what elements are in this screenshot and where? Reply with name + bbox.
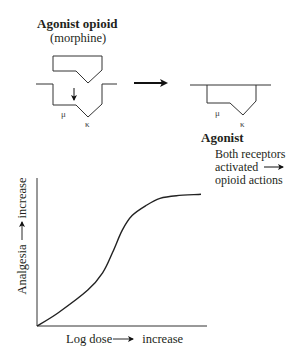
agonist-bound-receptor-shape	[190, 85, 271, 115]
before-mu-label: μ	[61, 110, 66, 119]
after-mu-label: μ	[215, 109, 220, 118]
x-axis-label-prefix: Log dose	[66, 332, 112, 346]
x-axis-label: Log doseincrease	[66, 333, 183, 346]
dose-response-curve	[37, 194, 201, 326]
y-axis-label-prefix: Analgesia	[15, 244, 29, 294]
after-title: Agonist	[201, 131, 244, 144]
note-line-1: Both receptors	[215, 148, 285, 160]
after-kappa-label: κ	[240, 120, 245, 129]
y-axis-label-suffix: increase	[15, 178, 29, 219]
y-axis-label: Analgesiaincrease	[16, 178, 29, 295]
receptor-shape-before	[36, 84, 117, 117]
before-subtitle: (morphine)	[50, 32, 106, 45]
chart-axes	[37, 178, 207, 326]
morphine-ligand-shape	[53, 56, 102, 83]
x-axis-label-suffix: increase	[142, 332, 183, 346]
before-kappa-label: κ	[85, 120, 90, 129]
before-title: Agonist opioid	[37, 17, 118, 30]
note-line-3: opioid actions	[215, 174, 283, 186]
note-line-2: activated	[215, 161, 258, 173]
